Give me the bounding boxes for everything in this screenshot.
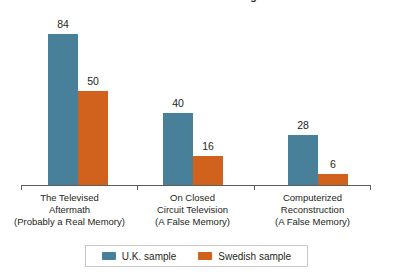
x-axis-tick-end bbox=[370, 185, 371, 190]
legend-label-swedish-sample: Swedish sample bbox=[218, 251, 291, 262]
bar-se-on-closed-circuit-television bbox=[193, 156, 223, 186]
bar-value-se-on-closed-circuit-television: 16 bbox=[188, 141, 228, 152]
bar-value-uk-computerized-reconstruction: 28 bbox=[283, 120, 323, 131]
bar-chart: of the London Bombing 84 50 40 16 28 6 T… bbox=[0, 0, 393, 275]
bar-value-uk-the-televised-aftermath: 84 bbox=[43, 19, 83, 30]
x-axis-tick-start bbox=[21, 185, 22, 190]
x-axis-label-computerized-reconstruction: Computerized Reconstruction (A False Mem… bbox=[254, 192, 371, 229]
bar-se-the-televised-aftermath bbox=[78, 91, 108, 186]
bar-value-se-computerized-reconstruction: 6 bbox=[313, 159, 353, 170]
bar-value-uk-on-closed-circuit-television: 40 bbox=[158, 98, 198, 109]
legend-item-swedish-sample[interactable]: Swedish sample bbox=[198, 251, 291, 262]
legend-label-uk-sample: U.K. sample bbox=[122, 251, 176, 262]
x-axis-tick-1 bbox=[137, 185, 138, 190]
x-axis-label-the-televised-aftermath: The Televised Aftermath (Probably a Real… bbox=[11, 192, 128, 229]
legend-swatch-icon-swedish-sample bbox=[198, 252, 212, 260]
legend-item-uk-sample[interactable]: U.K. sample bbox=[102, 251, 176, 262]
legend-swatch-icon-uk-sample bbox=[102, 252, 116, 260]
bar-value-se-the-televised-aftermath: 50 bbox=[73, 76, 113, 87]
plot-area: 84 50 40 16 28 6 bbox=[0, 0, 393, 186]
bar-uk-the-televised-aftermath bbox=[48, 34, 78, 186]
x-axis-label-on-closed-circuit-television: On Closed Circuit Television (A False Me… bbox=[134, 192, 251, 229]
x-axis-line bbox=[21, 185, 371, 186]
chart-legend: U.K. sample Swedish sample bbox=[85, 245, 308, 267]
x-axis-tick-2 bbox=[254, 185, 255, 190]
